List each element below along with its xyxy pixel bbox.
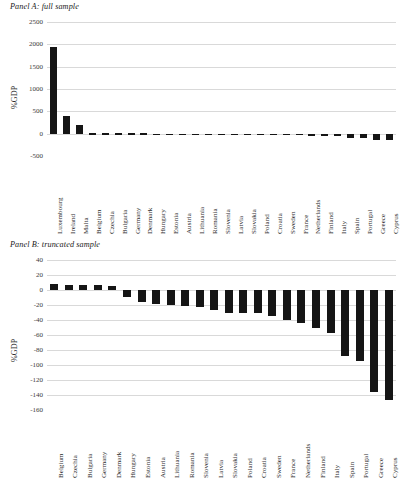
bar <box>63 116 70 134</box>
x-axis-tick-label: Latvia <box>237 216 245 234</box>
bar <box>334 134 341 137</box>
bar <box>205 134 212 136</box>
x-axis-tick-label: Ireland <box>69 214 77 234</box>
x-axis-tick-label: Portugal <box>362 454 370 478</box>
bar <box>225 290 233 313</box>
x-axis-tick-label: Estonia <box>144 457 152 478</box>
x-axis-tick-label: Latvia <box>217 460 225 478</box>
bar <box>244 134 251 136</box>
gridline <box>47 380 396 381</box>
y-axis-tick-label: 0 <box>0 286 43 294</box>
y-axis-tick-label: 1000 <box>0 85 43 93</box>
x-axis-tick-label: France <box>289 459 297 478</box>
x-axis-tick-label: Romania <box>211 208 219 234</box>
x-axis-tick-label: Bulgaria <box>86 453 94 478</box>
bar <box>327 290 335 333</box>
panel-a-title: Panel A: full sample <box>4 2 79 11</box>
x-axis-tick-label: Belgium <box>95 210 103 234</box>
bar <box>102 133 109 135</box>
x-axis-tick-label: Poland <box>246 458 254 478</box>
bar <box>50 284 58 290</box>
bar <box>356 290 364 361</box>
panel-b-plot: %GDP BelgiumCzechiaBulgariaGermanyDenmar… <box>0 252 403 478</box>
x-axis-tick-label: Slovenia <box>224 209 232 234</box>
gridline <box>47 365 396 366</box>
x-axis-tick-label: Hungary <box>129 453 137 478</box>
bar <box>179 134 186 136</box>
bar <box>386 134 393 141</box>
bar <box>312 290 320 328</box>
bar <box>373 134 380 140</box>
x-axis-tick-label: Austria <box>159 457 167 478</box>
bar <box>79 285 87 290</box>
gridline <box>47 111 396 112</box>
y-axis-tick-label: 500 <box>0 107 43 115</box>
bar <box>166 134 173 136</box>
x-axis-tick-label: Italy <box>333 465 341 478</box>
x-axis-tick-label: Estonia <box>172 213 180 234</box>
bar <box>196 290 204 307</box>
y-axis-tick-label: -500 <box>0 152 43 160</box>
bar <box>254 290 262 313</box>
x-axis-tick-label: Finland <box>319 456 327 478</box>
bar <box>370 290 378 392</box>
x-axis-tick-label: Portugal <box>366 210 374 234</box>
panel-b-x-axis-labels: BelgiumCzechiaBulgariaGermanyDenmarkHung… <box>47 412 396 478</box>
bar <box>321 134 328 136</box>
x-axis-tick-label: Slovakia <box>250 209 258 234</box>
bar <box>128 133 135 135</box>
bar <box>218 134 225 136</box>
gridline <box>47 67 396 68</box>
bar <box>152 290 160 304</box>
y-axis-tick-label: -60 <box>0 331 43 339</box>
y-axis-tick-label: -120 <box>0 376 43 384</box>
x-axis-tick-label: France <box>302 215 310 234</box>
x-axis-tick-label: Austria <box>185 213 193 234</box>
y-axis-tick-label: 1500 <box>0 63 43 71</box>
y-axis-tick-label: 20 <box>0 271 43 279</box>
x-axis-tick-label: Croatia <box>260 457 268 478</box>
x-axis-tick-label: Lithuania <box>173 451 181 478</box>
bar <box>385 290 393 400</box>
bar <box>283 290 291 320</box>
panel-b-plot-area <box>47 260 396 410</box>
gridline <box>47 275 396 276</box>
panel-a-plot: %GDP LuxembourgIrelandMaltaBelgiumCzechi… <box>0 14 403 238</box>
x-axis-tick-label: Bulgaria <box>121 209 129 234</box>
x-axis-tick-label: Italy <box>340 221 348 234</box>
bar <box>123 290 131 297</box>
y-axis-tick-label: 0 <box>0 130 43 138</box>
bar <box>108 286 116 290</box>
bar <box>268 290 276 316</box>
x-axis-tick-label: Greece <box>379 214 387 234</box>
bar <box>94 285 102 290</box>
bar <box>181 290 189 306</box>
bar <box>192 134 199 136</box>
y-axis-tick-label: -40 <box>0 316 43 324</box>
x-axis-tick-label: Slovenia <box>202 453 210 478</box>
x-axis-tick-label: Sweden <box>275 456 283 478</box>
bar <box>140 133 147 135</box>
panel-a: Panel A: full sample %GDP LuxembourgIrel… <box>0 0 403 238</box>
x-axis-tick-label: Spain <box>353 218 361 234</box>
bar <box>239 290 247 313</box>
bar <box>167 290 175 305</box>
y-axis-tick-label: 2000 <box>0 40 43 48</box>
bar <box>89 133 96 135</box>
bar <box>153 134 160 136</box>
x-axis-tick-label: Czechia <box>108 211 116 234</box>
y-axis-tick-label: 40 <box>0 256 43 264</box>
panel-a-x-axis-labels: LuxembourgIrelandMaltaBelgiumCzechiaBulg… <box>47 158 396 234</box>
x-axis-tick-label: Denmark <box>146 208 154 234</box>
x-axis-tick-label: Malta <box>82 217 90 234</box>
x-axis-tick-label: Germany <box>134 208 142 234</box>
x-axis-tick-label: Cyprus <box>391 457 399 478</box>
bar <box>65 285 73 290</box>
bar <box>76 125 83 134</box>
x-axis-tick-label: Greece <box>377 458 385 478</box>
bar <box>115 133 122 135</box>
bar <box>360 134 367 138</box>
x-axis-tick-label: Spain <box>348 462 356 478</box>
x-axis-tick-label: Croatia <box>276 213 284 234</box>
y-axis-tick-label: -80 <box>0 346 43 354</box>
